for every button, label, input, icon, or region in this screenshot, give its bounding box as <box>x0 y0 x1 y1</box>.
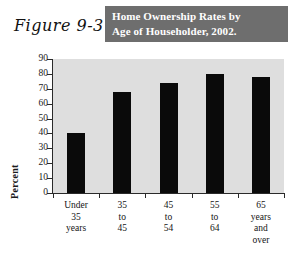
x-axis-tick-mark <box>145 193 146 198</box>
bar <box>206 74 224 193</box>
figure-number-label: Figure 9-3 <box>14 14 104 38</box>
y-axis-tick-labels: 0102030405060708090 <box>24 59 48 193</box>
y-axis-tick-label: 40 <box>24 129 48 139</box>
y-axis-tick-label: 10 <box>24 173 48 183</box>
y-axis-tick-label: 50 <box>24 114 48 124</box>
y-axis-tick-label: 0 <box>24 188 48 198</box>
y-axis-tick-label: 20 <box>24 158 48 168</box>
x-axis-tick-mark <box>99 193 100 198</box>
x-axis-category-label: 35 to 45 <box>99 200 145 235</box>
x-axis-category-label: Under 35 years <box>53 200 99 235</box>
bars-layer <box>53 59 284 193</box>
figure-header: Figure 9-3 Home Ownership Rates by Age o… <box>0 6 296 42</box>
figure-panel: Figure 9-3 Home Ownership Rates by Age o… <box>0 0 296 259</box>
x-axis-category-labels: Under 35 years35 to 4545 to 5455 to 6465… <box>53 200 284 256</box>
bar-chart: Percent 0102030405060708090 Under 35 yea… <box>0 52 296 257</box>
x-axis-tick-mark <box>53 193 54 198</box>
x-axis-category-label: 55 to 64 <box>192 200 238 235</box>
y-axis-tick-label: 30 <box>24 144 48 154</box>
x-axis-tick-mark <box>192 193 193 198</box>
y-axis-tick-label: 60 <box>24 99 48 109</box>
y-axis-label: Percent <box>8 147 22 217</box>
y-axis-tick-label: 80 <box>24 69 48 79</box>
x-axis-tick-mark <box>238 193 239 198</box>
y-axis-tick-label: 90 <box>24 54 48 64</box>
x-axis-tick-mark <box>284 193 285 198</box>
figure-title-banner: Home Ownership Rates by Age of Household… <box>105 6 288 42</box>
bar <box>160 83 178 193</box>
x-axis-line <box>52 193 284 194</box>
bar <box>67 133 85 193</box>
figure-title-text: Home Ownership Rates by Age of Household… <box>112 9 283 38</box>
x-axis-category-label: 65 years and over <box>238 200 284 246</box>
y-axis-tick-label: 70 <box>24 84 48 94</box>
x-axis-category-label: 45 to 54 <box>145 200 191 235</box>
bar <box>252 77 270 193</box>
bar <box>113 92 131 193</box>
